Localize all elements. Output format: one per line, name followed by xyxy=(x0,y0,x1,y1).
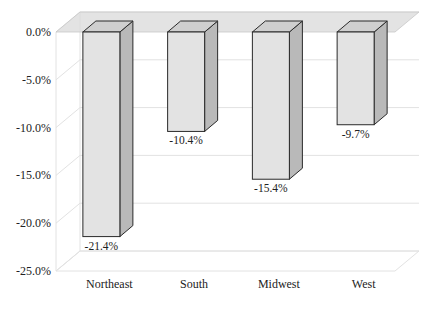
bar-midwest xyxy=(252,21,302,179)
value-label: -21.4% xyxy=(85,240,119,252)
y-tick-label: 0.0% xyxy=(26,25,51,39)
value-label: -9.7% xyxy=(342,128,370,140)
x-axis: NortheastSouthMidwestWest xyxy=(86,277,376,291)
bar-west xyxy=(337,21,387,125)
bar-northeast xyxy=(83,21,133,237)
y-tick-label: -25.0% xyxy=(16,264,51,278)
value-label: -10.4% xyxy=(169,134,203,146)
category-label: West xyxy=(352,277,376,291)
category-label: South xyxy=(180,277,208,291)
y-tick-label: -15.0% xyxy=(16,168,51,182)
y-tick-label: -10.0% xyxy=(16,121,51,135)
value-label: -15.4% xyxy=(254,182,288,194)
bar-chart: 0.0%-5.0%-10.0%-15.0%-20.0%-25.0% -21.4%… xyxy=(0,0,434,313)
y-tick-label: -5.0% xyxy=(22,73,51,87)
category-label: Northeast xyxy=(86,277,133,291)
bar-south xyxy=(168,21,218,131)
y-axis: 0.0%-5.0%-10.0%-15.0%-20.0%-25.0% xyxy=(16,25,51,278)
category-label: Midwest xyxy=(258,277,301,291)
y-tick-label: -20.0% xyxy=(16,216,51,230)
